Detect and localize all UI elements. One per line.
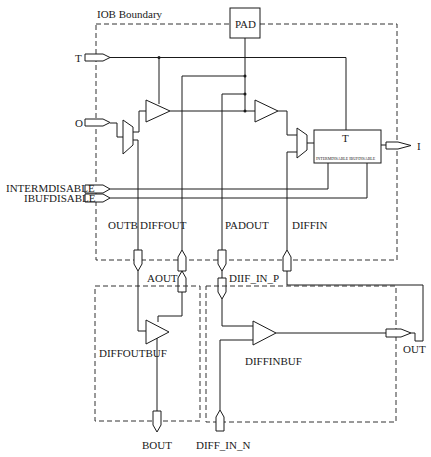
pin-outb bbox=[134, 250, 142, 271]
diffinbuf-label: DIFFINBUF bbox=[245, 355, 302, 367]
register-t-label: T bbox=[342, 132, 349, 144]
padout-label: PADOUT bbox=[225, 219, 269, 231]
diffout-label: DIFFOUT bbox=[140, 219, 187, 231]
port-t-icon bbox=[85, 54, 110, 61]
pin-bout bbox=[153, 411, 161, 432]
output-buffer bbox=[146, 100, 170, 122]
port-ibufdisable-label: IBUFDISABLE bbox=[24, 192, 96, 204]
pin-diffin bbox=[283, 250, 291, 271]
diffinbuf-triangle bbox=[253, 321, 276, 345]
pin-diff-in-p bbox=[218, 278, 226, 299]
diffinbuf-boundary bbox=[206, 286, 396, 422]
port-i-label: I bbox=[417, 140, 421, 152]
pin-diff-in-n bbox=[216, 410, 224, 431]
iob-diagram: IOB Boundary PAD T O T INTERMDISABLE IBU… bbox=[0, 0, 431, 457]
port-t-label: T bbox=[75, 52, 82, 64]
wire-diffin bbox=[287, 152, 297, 250]
pad-label: PAD bbox=[235, 18, 256, 30]
aout-label: AOUT bbox=[147, 272, 178, 284]
pin-aout bbox=[178, 271, 186, 292]
input-mux bbox=[297, 128, 307, 158]
port-i-icon bbox=[386, 142, 411, 149]
diff-in-p-label: DIIF_IN_P bbox=[229, 272, 279, 284]
out-label: OUT bbox=[403, 343, 426, 355]
outb-label: OUTB bbox=[108, 219, 138, 231]
register-disable-label: INTERMDISABLE IBUFDISABLE bbox=[316, 156, 376, 161]
port-out-icon bbox=[386, 329, 411, 337]
output-mux bbox=[123, 120, 133, 154]
input-buffer bbox=[255, 100, 278, 122]
port-o-icon bbox=[85, 119, 110, 126]
diff-in-n-label: DIFF_IN_N bbox=[196, 439, 250, 451]
bout-label: BOUT bbox=[142, 439, 172, 451]
port-o-label: O bbox=[75, 117, 83, 129]
pin-diffout bbox=[178, 250, 186, 271]
diffin-label: DIFFIN bbox=[292, 219, 328, 231]
wire-intermdisable bbox=[110, 163, 328, 189]
pin-padout bbox=[218, 250, 226, 271]
iob-boundary-label: IOB Boundary bbox=[97, 8, 163, 20]
